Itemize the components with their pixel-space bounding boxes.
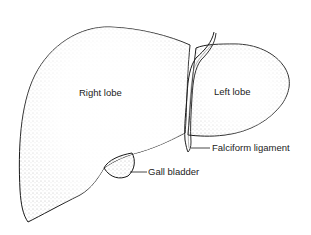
- right-lobe: [19, 27, 190, 222]
- left-lobe-label: Left lobe: [214, 87, 250, 97]
- right-lobe-label: Right lobe: [79, 88, 122, 98]
- falciform-ligament-label: Falciform ligament: [212, 143, 290, 153]
- liver-illustration: [0, 0, 311, 235]
- liver-diagram: Right lobe Left lobe Falciform ligament …: [0, 0, 311, 235]
- gall-bladder-label: Gall bladder: [148, 167, 199, 177]
